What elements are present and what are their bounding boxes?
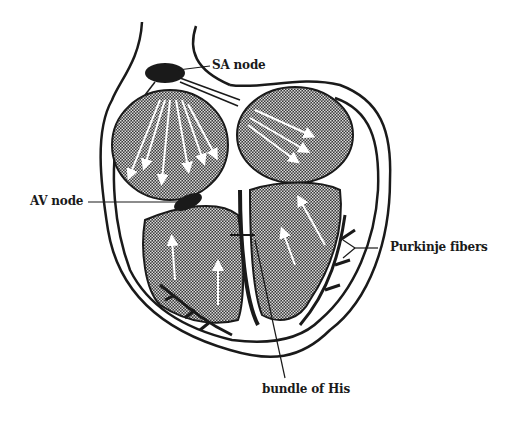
label-sa-node: SA node <box>212 58 266 72</box>
label-av-node: AV node <box>30 194 83 208</box>
label-bundle-of-his: bundle of His <box>262 382 350 396</box>
left-ventricle <box>250 183 341 321</box>
label-purkinje-fibers: Purkinje fibers <box>390 240 488 254</box>
left-atrium <box>237 87 353 183</box>
sa-node <box>145 63 185 83</box>
